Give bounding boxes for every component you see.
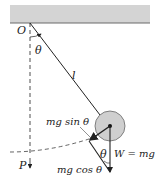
tangential-force-label: mg sin θ (46, 117, 89, 127)
angle-label-top: θ (35, 45, 42, 56)
pendulum-string (30, 23, 100, 115)
length-label: l (72, 70, 76, 81)
swing-path-arc (10, 138, 92, 152)
angle-label-bottom: θ (100, 149, 107, 160)
ceiling (10, 5, 150, 23)
radial-force-label: mg cos θ (57, 165, 102, 175)
point-p-label: P (19, 160, 26, 171)
label-pointer (80, 127, 91, 138)
angle-arc-bottom (104, 161, 110, 163)
weight-label: W = mg (114, 149, 155, 159)
pivot-label: O (17, 25, 26, 36)
